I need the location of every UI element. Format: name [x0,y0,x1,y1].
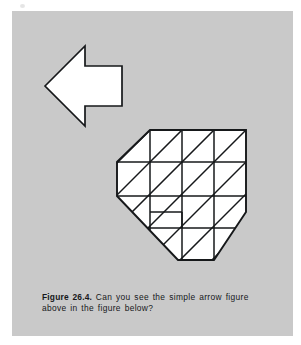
figure-number-label: Figure 26.4. [42,292,92,302]
simple-arrow-figure [45,46,122,126]
scanned-book-page: Figure 26.4. Can you see the simple arro… [0,0,301,345]
arrow-shape [45,46,122,126]
figure-caption: Figure 26.4. Can you see the simple arro… [42,292,266,314]
scan-speck [20,4,25,8]
figure-illustration [12,11,293,336]
complex-hexagon-figure [86,78,293,322]
